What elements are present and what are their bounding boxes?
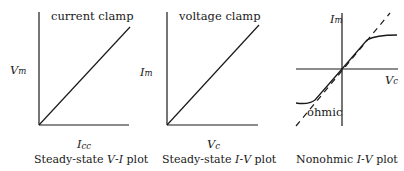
y-axis-label: Im — [139, 65, 153, 79]
linear-curve — [167, 25, 259, 125]
panel-steady-state-iv: voltage clamp Im Vc Steady-state I-V plo… — [139, 9, 277, 166]
ohmic-annotation: ohmic — [307, 105, 342, 119]
annotation-label: voltage clamp — [178, 9, 261, 23]
annotation-label: current clamp — [51, 9, 134, 23]
x-axis-label: Icc — [76, 137, 91, 151]
caption: Steady-state I-V plot — [162, 153, 277, 166]
y-axis-label: Vm — [10, 63, 26, 77]
panel-nonohmic-iv: Im Vc ohmic Nonohmic I-V plot — [296, 12, 398, 166]
y-axis-label: Im — [329, 12, 343, 26]
x-axis-label: Vc — [207, 137, 220, 151]
figure: current clamp Vm Icc Steady-state V-I pl… — [0, 0, 404, 171]
panel-steady-state-vi: current clamp Vm Icc Steady-state V-I pl… — [10, 9, 149, 166]
linear-curve — [39, 27, 130, 125]
caption: Nonohmic I-V plot — [296, 153, 398, 166]
caption: Steady-state V-I plot — [34, 153, 149, 166]
x-axis-label: Vc — [385, 73, 398, 87]
